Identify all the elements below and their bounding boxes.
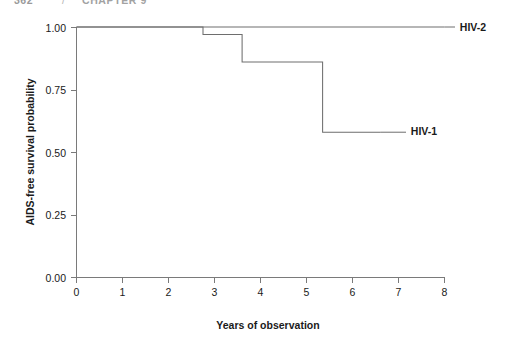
- figure-container: 362 / CHAPTER 9 1.00 0.75 0.50 0.25 0.00: [0, 0, 513, 343]
- x-tick-label-6: 6: [350, 286, 356, 298]
- x-tick-label-3: 3: [212, 286, 218, 298]
- x-tick-label-4: 4: [258, 286, 264, 298]
- y-axis-title: AIDS-free survival probability: [24, 78, 36, 225]
- x-axis-ticks: [77, 278, 445, 284]
- x-axis-tick-labels: 0 1 2 3 4 5 6 7 8: [74, 286, 448, 298]
- survival-curve-chart: 1.00 0.75 0.50 0.25 0.00 0 1 2 3 4 5 6: [0, 0, 513, 343]
- y-axis-tick-labels: 1.00 0.75 0.50 0.25 0.00: [46, 22, 67, 284]
- x-tick-label-5: 5: [304, 286, 310, 298]
- x-tick-label-7: 7: [396, 286, 402, 298]
- x-tick-label-0: 0: [74, 286, 80, 298]
- y-tick-label-0-00: 0.00: [46, 272, 67, 284]
- y-tick-label-0-25: 0.25: [46, 209, 67, 221]
- y-tick-label-0-50: 0.50: [46, 147, 67, 159]
- x-tick-label-1: 1: [120, 286, 126, 298]
- y-tick-label-1-00: 1.00: [46, 22, 67, 34]
- series-line-hiv-1: [77, 27, 381, 132]
- series-label-hiv-1: HIV-1: [411, 125, 437, 137]
- x-tick-label-8: 8: [442, 286, 448, 298]
- x-axis-title: Years of observation: [216, 319, 319, 331]
- series-label-hiv-2: HIV-2: [460, 21, 486, 33]
- x-tick-label-2: 2: [166, 286, 172, 298]
- y-axis-ticks: [71, 28, 77, 278]
- y-tick-label-0-75: 0.75: [46, 84, 67, 96]
